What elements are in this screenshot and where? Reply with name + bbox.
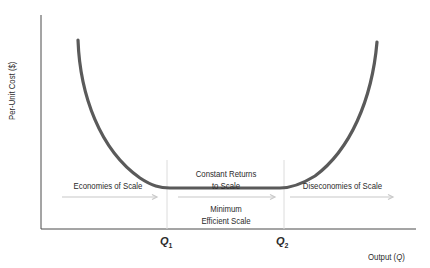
constant-returns-arrow	[178, 195, 275, 200]
constant-returns-label-line1: Constant Returns	[185, 168, 267, 179]
diseconomies-of-scale-label: Diseconomies of Scale	[295, 180, 389, 191]
average-cost-curve	[78, 40, 377, 188]
economies-arrow	[62, 195, 157, 200]
minimum-efficient-scale-label-line1: Minimum	[185, 203, 267, 214]
y-axis-label: Per-Unit Cost ($)	[6, 62, 17, 120]
chart-canvas	[0, 0, 430, 268]
q1-tick-label: Q1	[160, 235, 172, 249]
minimum-efficient-scale-label-line2: Efficient Scale	[185, 215, 267, 226]
diseconomies-arrow	[290, 195, 393, 200]
x-axis-label: Output (Q)	[368, 251, 405, 262]
economies-of-scale-label: Economies of Scale	[67, 180, 149, 191]
constant-returns-label-line2: to Scale	[185, 180, 267, 191]
q2-tick-label: Q2	[276, 235, 288, 249]
